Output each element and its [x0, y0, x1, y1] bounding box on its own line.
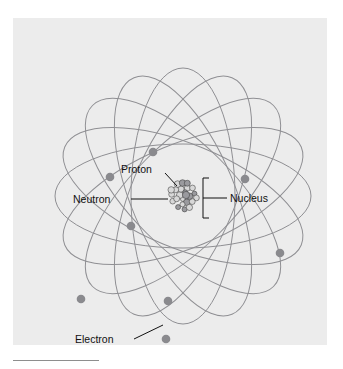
electron-dot-5	[276, 249, 285, 258]
neutron-sphere	[168, 187, 174, 193]
footer-rule	[13, 360, 99, 361]
neutron-sphere	[190, 185, 196, 191]
proton-label: Proton	[121, 163, 152, 175]
electron-dot-6	[77, 295, 86, 304]
electron-dot-2	[106, 173, 115, 182]
figure-panel: Nucleus Proton Neutron Electron	[13, 18, 327, 345]
proton-sphere-highlighted	[182, 191, 189, 198]
nucleus-label: Nucleus	[230, 192, 268, 204]
electron-dot-3	[241, 175, 250, 184]
electron-label: Electron	[75, 333, 114, 345]
proton-sphere	[184, 180, 190, 186]
callout-proton: Proton	[121, 163, 177, 186]
neutron-sphere	[186, 204, 192, 210]
electron-dot-8	[162, 335, 171, 344]
neutron-sphere	[174, 196, 180, 202]
electron-dot-1	[149, 148, 158, 157]
neutron-sphere	[180, 202, 185, 207]
proton-leader-line	[165, 173, 177, 186]
nucleus-cluster	[168, 180, 199, 212]
neutron-label: Neutron	[73, 193, 111, 205]
callout-nucleus: Nucleus	[203, 178, 268, 218]
callout-electron: Electron	[75, 325, 163, 345]
atom-diagram: Nucleus Proton Neutron Electron	[13, 18, 327, 345]
electron-dot-4	[127, 222, 136, 231]
electrons-group	[77, 148, 285, 344]
electron-leader-line	[134, 325, 163, 339]
electron-dot-7	[164, 297, 173, 306]
